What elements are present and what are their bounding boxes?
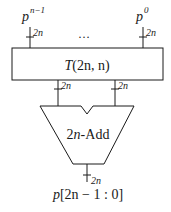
input-label-base: p xyxy=(21,9,29,24)
bus-width-label: 2n xyxy=(146,27,156,38)
input-label-superscript: n−1 xyxy=(30,5,45,15)
ellipsis: … xyxy=(78,27,90,41)
adder-label: 2n-Add xyxy=(67,127,110,142)
transform-block: T(2n, n) xyxy=(12,48,163,80)
multiplier-diagram: p n−1 2n … p 0 2n T(2n, n) 2n 2n 2n-Add xyxy=(0,0,171,212)
bus-width-label: 2n xyxy=(33,27,43,38)
input-p-0: p 0 2n xyxy=(135,5,156,48)
block-output-left: 2n xyxy=(54,80,71,106)
input-label-base: p xyxy=(135,9,143,24)
adder-block: 2n-Add xyxy=(40,106,134,164)
input-label-superscript: 0 xyxy=(144,5,149,15)
bus-width-label: 2n xyxy=(61,80,71,91)
block-output-right: 2n xyxy=(111,80,128,106)
final-output: 2n p[2n − 1 : 0] xyxy=(52,164,123,202)
transform-label: T(2n, n) xyxy=(64,58,109,74)
output-label: p[2n − 1 : 0] xyxy=(52,187,123,202)
bus-width-label: 2n xyxy=(118,80,128,91)
input-p-n-minus-1: p n−1 2n xyxy=(21,5,45,48)
transform-args: (2n, n) xyxy=(72,58,110,74)
bus-width-label: 2n xyxy=(91,175,101,186)
